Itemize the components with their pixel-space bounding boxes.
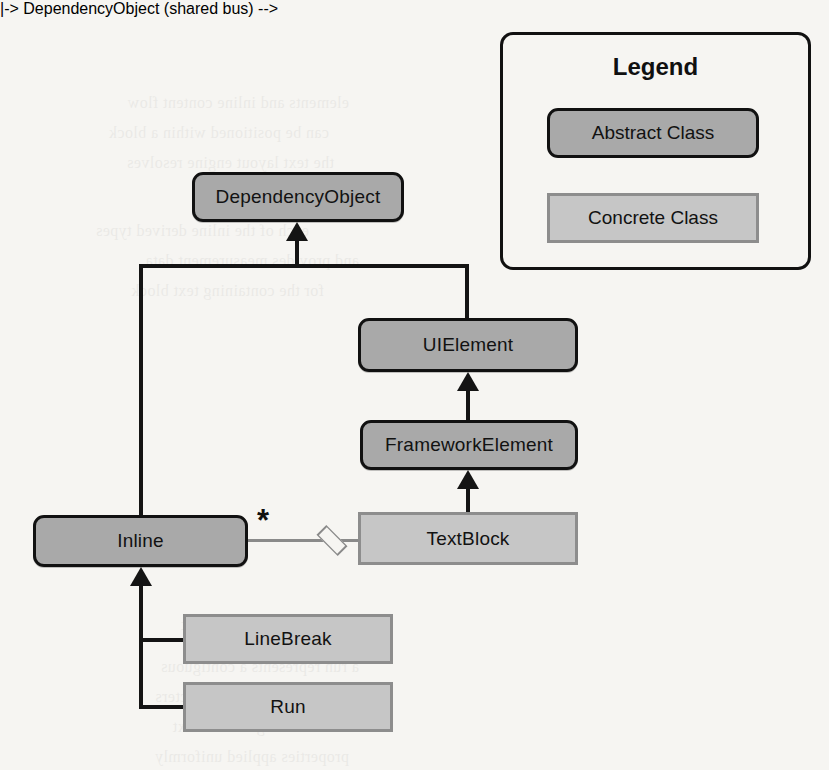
arrowhead-to-frameworkelement xyxy=(457,470,479,489)
connector-stub-linebreak xyxy=(139,638,185,642)
connector-textblock-to-frameworkelement xyxy=(466,489,470,512)
class-node-run[interactable]: Run xyxy=(183,682,393,732)
class-node-inline[interactable]: Inline xyxy=(33,515,248,567)
class-node-uielement[interactable]: UIElement xyxy=(358,318,578,372)
class-node-label: Run xyxy=(270,696,305,718)
connector-bus-to-inline xyxy=(139,264,143,517)
class-node-label: Inline xyxy=(117,530,164,552)
connector-bus-horizontal xyxy=(139,264,469,268)
class-node-linebreak[interactable]: LineBreak xyxy=(183,614,393,664)
arrowhead-to-inline xyxy=(130,567,152,586)
legend-panel: Legend Abstract Class Concrete Class xyxy=(500,32,811,270)
class-node-frameworkelement[interactable]: FrameworkElement xyxy=(360,420,578,470)
arrowhead-to-dependencyobject xyxy=(286,222,308,241)
connector-stub-run xyxy=(139,705,185,709)
arrowhead-to-uielement xyxy=(457,372,479,391)
class-node-label: LineBreak xyxy=(244,628,331,650)
aggregation-diamond-wrap xyxy=(314,529,350,551)
class-node-dependencyobject[interactable]: DependencyObject xyxy=(192,172,404,222)
class-node-label: TextBlock xyxy=(426,528,509,550)
legend-item-label: Concrete Class xyxy=(588,207,718,229)
legend-title: Legend xyxy=(503,53,808,81)
legend-item-abstract-class: Abstract Class xyxy=(547,108,759,158)
class-node-label: DependencyObject xyxy=(216,186,381,208)
class-node-label: UIElement xyxy=(423,334,514,356)
aggregation-diamond-icon xyxy=(316,524,347,555)
connector-subclasses-to-inline xyxy=(139,586,143,709)
class-node-label: FrameworkElement xyxy=(385,434,553,456)
multiplicity-label: * xyxy=(257,505,269,536)
connector-bus-to-uielement xyxy=(465,264,469,318)
legend-item-label: Abstract Class xyxy=(592,122,714,144)
class-node-textblock[interactable]: TextBlock xyxy=(358,512,578,565)
connector-frameworkelement-to-uielement xyxy=(466,391,470,420)
legend-item-concrete-class: Concrete Class xyxy=(547,193,759,243)
